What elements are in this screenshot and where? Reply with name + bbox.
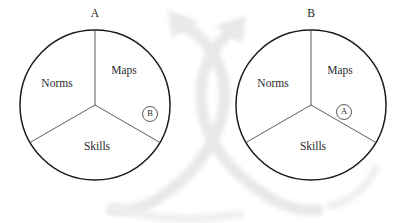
diagram-b: B Maps Norms Skills A	[236, 7, 386, 180]
diagram-a-sector-norms-label: Norms	[41, 77, 73, 89]
diagram-a-sector-skills-label: Skills	[84, 140, 111, 152]
diagram-b-sector-norms-label: Norms	[257, 77, 289, 89]
diagram-b-sector-skills-label: Skills	[300, 140, 327, 152]
diagram-b-marker-label: A	[341, 106, 348, 116]
diagram-a-marker-label: B	[147, 108, 153, 118]
diagram-b-top-label: B	[307, 7, 315, 19]
diagram-a-top-label: A	[91, 7, 100, 19]
pie-diagrams: A Maps Norms Skills B B Maps Norms Skill…	[0, 0, 407, 223]
diagram-a-sector-maps-label: Maps	[111, 64, 137, 77]
diagram-b-sector-maps-label: Maps	[327, 64, 353, 77]
diagram-a: A Maps Norms Skills B	[20, 7, 170, 180]
figure-canvas: A Maps Norms Skills B B Maps Norms Skill…	[0, 0, 407, 223]
